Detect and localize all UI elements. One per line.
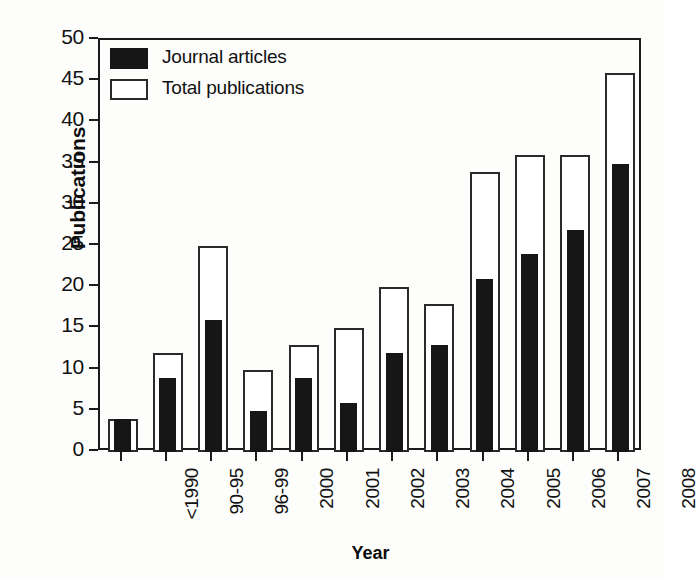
y-tick-mark [89,78,98,80]
bar-journal-2001 [295,378,312,452]
legend-label: Total publications [162,77,304,99]
plot-area [98,38,641,450]
bar-journal-<1990 [114,419,131,452]
y-tick-label: 10 [61,355,84,379]
x-tick-label: 90-95 [226,468,248,579]
y-tick-label: 45 [61,66,84,90]
y-tick-mark [89,202,98,204]
y-tick-label: 20 [61,272,84,296]
bar-journal-2005 [476,279,493,452]
y-tick-mark [89,284,98,286]
x-tick-label: 2001 [362,468,384,579]
y-tick-mark [89,449,98,451]
y-tick-mark [89,325,98,327]
y-tick-label: 15 [61,313,84,337]
y-tick-label: 0 [73,437,84,461]
bar-journal-2007 [567,230,584,452]
x-tick-label: 2002 [407,468,429,579]
y-tick-mark [89,119,98,121]
bar-journal-2002 [340,403,357,452]
y-tick-mark [89,161,98,163]
bar-journal-2008 [612,164,629,452]
y-tick-label: 5 [73,396,84,420]
x-tick-label: 2007 [633,468,655,579]
x-tick-label: 2000 [316,468,338,579]
bar-journal-2004 [431,345,448,452]
x-tick-label: <1990 [181,468,203,579]
y-tick-mark [89,243,98,245]
x-tick-label: 2004 [497,468,519,579]
legend-label: Journal articles [162,46,287,68]
x-tick-label: 2006 [588,468,610,579]
x-tick-label: 2005 [543,468,565,579]
legend-swatch-journal-articles [110,48,148,69]
bar-journal-2003 [386,353,403,452]
bar-journal-90-95 [159,378,176,452]
y-tick-label: 25 [61,231,84,255]
y-tick-label: 30 [61,190,84,214]
bar-journal-96-99 [205,320,222,452]
y-tick-mark [89,367,98,369]
y-tick-mark [89,37,98,39]
bar-journal-2000 [250,411,267,452]
bar-journal-2006 [521,254,538,452]
y-tick-label: 50 [61,25,84,49]
x-tick-label: 2008 [678,468,700,579]
y-tick-mark [89,408,98,410]
x-tick-label: 96-99 [271,468,293,579]
y-tick-label: 40 [61,107,84,131]
y-tick-label: 35 [61,149,84,173]
x-tick-label: 2003 [452,468,474,579]
legend-swatch-total-publications [110,79,148,100]
